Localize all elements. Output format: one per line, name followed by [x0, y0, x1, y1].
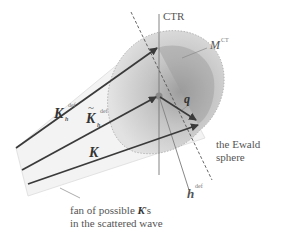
ewald-label-line1: the Ewald: [216, 138, 261, 150]
kh-def-superscript: def: [68, 102, 76, 108]
k-tilde-def-label: K: [85, 111, 97, 126]
mct-label: M: [209, 38, 221, 52]
fan-label-text-a: fan of possible: [70, 204, 138, 216]
mct-superscript: CT: [221, 37, 229, 43]
diffraction-diagram: CTR M CT q K h def ~ K h def K h def the…: [0, 0, 283, 233]
k-tilde-def-superscript: def: [100, 108, 108, 114]
ewald-label-line2: sphere: [216, 151, 245, 163]
ctr-label: CTR: [163, 10, 185, 22]
fan-pointer: [60, 188, 80, 198]
q-label: q: [184, 92, 190, 106]
k-label: K: [88, 145, 100, 160]
h-def-superscript: def: [195, 183, 203, 189]
kh-def-label: K: [53, 106, 65, 121]
fan-label-text-b: 's: [145, 204, 151, 216]
fan-label-line1: fan of possible K's: [70, 204, 151, 216]
fan-label-line2: in the scattered wave: [70, 217, 163, 229]
h-def-label: h: [187, 186, 194, 201]
